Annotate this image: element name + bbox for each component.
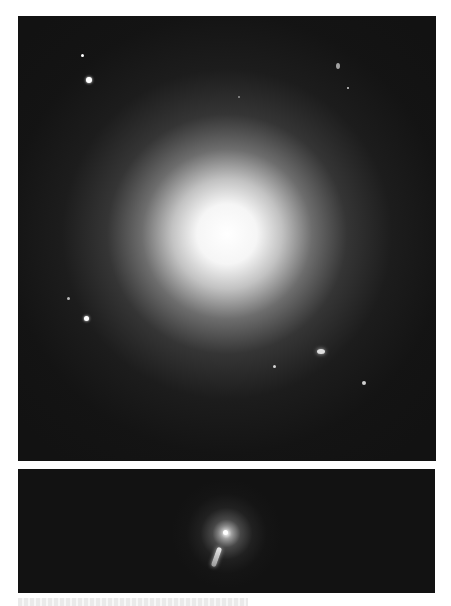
star — [86, 77, 92, 83]
galaxy-small — [336, 63, 340, 69]
galaxy-small — [317, 349, 325, 354]
caption-cropped — [18, 598, 248, 606]
galaxy-image-top-panel — [18, 16, 436, 461]
jet — [211, 547, 223, 568]
star — [362, 381, 366, 385]
star — [81, 54, 84, 57]
star — [67, 297, 70, 300]
galaxy-core-jet-bottom-panel — [18, 469, 435, 593]
star — [84, 316, 89, 321]
star — [347, 87, 349, 89]
galaxy-core — [223, 530, 228, 535]
star — [238, 96, 240, 98]
star — [273, 365, 276, 368]
